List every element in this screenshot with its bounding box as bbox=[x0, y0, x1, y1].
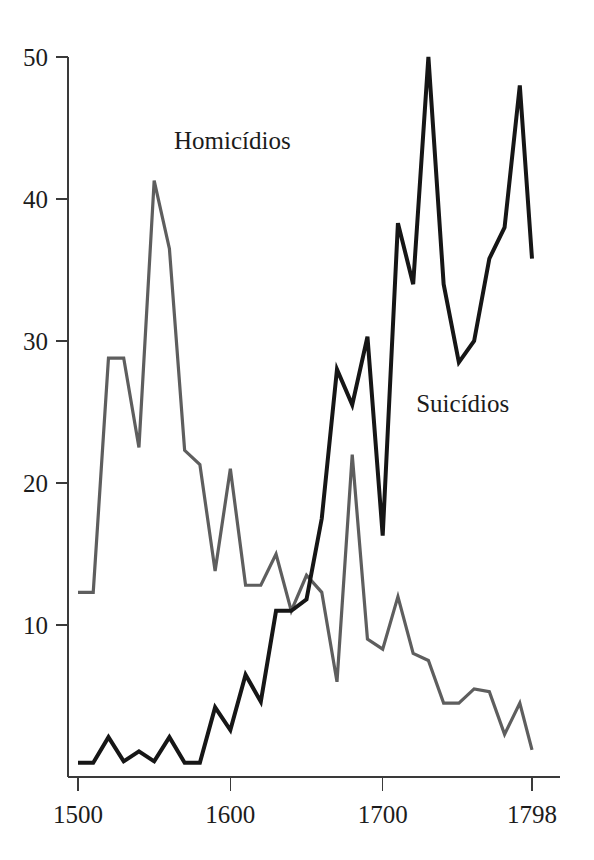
series-label-suicdios: Suicídios bbox=[416, 390, 509, 417]
chart-annotations-group: HomicídiosSuicídios bbox=[174, 127, 509, 417]
chart-figure: 1020304050 1500160017001798 HomicídiosSu… bbox=[0, 0, 594, 860]
line-chart: 1020304050 1500160017001798 HomicídiosSu… bbox=[0, 0, 594, 860]
series-label-homicdios: Homicídios bbox=[174, 127, 291, 154]
x-axis-ticks: 1500160017001798 bbox=[53, 777, 557, 828]
x-tick-label: 1700 bbox=[358, 801, 408, 828]
x-tick-label: 1798 bbox=[507, 801, 557, 828]
y-axis-ticks: 1020304050 bbox=[23, 44, 68, 639]
y-tick-label: 10 bbox=[23, 612, 48, 639]
x-tick-label: 1500 bbox=[53, 801, 103, 828]
x-tick-label: 1600 bbox=[205, 801, 255, 828]
y-tick-label: 50 bbox=[23, 44, 48, 71]
series-line-homicdios bbox=[78, 181, 532, 750]
y-tick-label: 40 bbox=[23, 186, 48, 213]
y-tick-label: 30 bbox=[23, 328, 48, 355]
y-tick-label: 20 bbox=[23, 470, 48, 497]
